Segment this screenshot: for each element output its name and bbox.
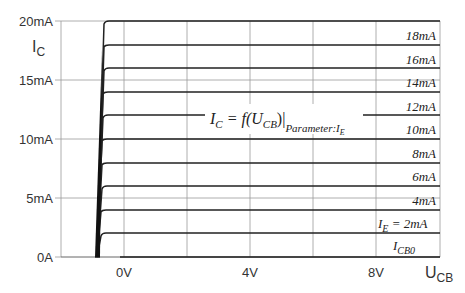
- svg-text:20mA: 20mA: [19, 14, 53, 29]
- icb0-label: ICB0: [392, 238, 415, 256]
- svg-text:4mA: 4mA: [412, 193, 436, 208]
- svg-text:12mA: 12mA: [406, 99, 436, 114]
- svg-text:8V: 8V: [368, 265, 384, 280]
- svg-text:0V: 0V: [116, 265, 132, 280]
- x-axis-label: UCB: [425, 264, 453, 285]
- characteristic-chart: 20mA 15mA 10mA 5mA 0A 0V 4V 8V IC UCB IC…: [0, 0, 465, 293]
- svg-text:16mA: 16mA: [406, 52, 436, 67]
- steep-rise-band: [95, 50, 102, 257]
- svg-text:10mA: 10mA: [406, 122, 436, 137]
- svg-text:6mA: 6mA: [412, 169, 436, 184]
- ie-label: IE = 2mA: [377, 216, 428, 234]
- svg-text:4V: 4V: [242, 265, 258, 280]
- svg-text:5mA: 5mA: [26, 191, 53, 206]
- svg-text:10mA: 10mA: [19, 132, 53, 147]
- svg-text:15mA: 15mA: [19, 73, 53, 88]
- curve-labels: 18mA 16mA 14mA 12mA 10mA 8mA 6mA 4mA IE …: [377, 28, 436, 256]
- svg-text:0A: 0A: [37, 250, 53, 265]
- svg-text:18mA: 18mA: [406, 28, 436, 43]
- svg-text:14mA: 14mA: [406, 75, 436, 90]
- y-axis-label: IC: [32, 38, 45, 59]
- svg-text:8mA: 8mA: [412, 146, 436, 161]
- x-tick-labels: 0V 4V 8V: [116, 265, 384, 280]
